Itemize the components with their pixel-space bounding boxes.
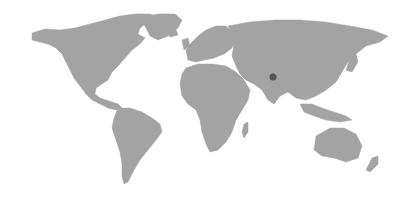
new-zealand xyxy=(366,156,378,172)
europe xyxy=(186,26,236,62)
world-map xyxy=(0,0,417,201)
australia xyxy=(314,128,362,162)
africa xyxy=(180,64,250,152)
north-america xyxy=(32,14,160,110)
southeast-asia xyxy=(300,104,352,122)
south-america xyxy=(112,108,162,184)
location-dot-icon[interactable] xyxy=(270,74,277,81)
asia xyxy=(228,20,388,104)
madagascar xyxy=(242,122,248,138)
greenland xyxy=(140,14,182,40)
